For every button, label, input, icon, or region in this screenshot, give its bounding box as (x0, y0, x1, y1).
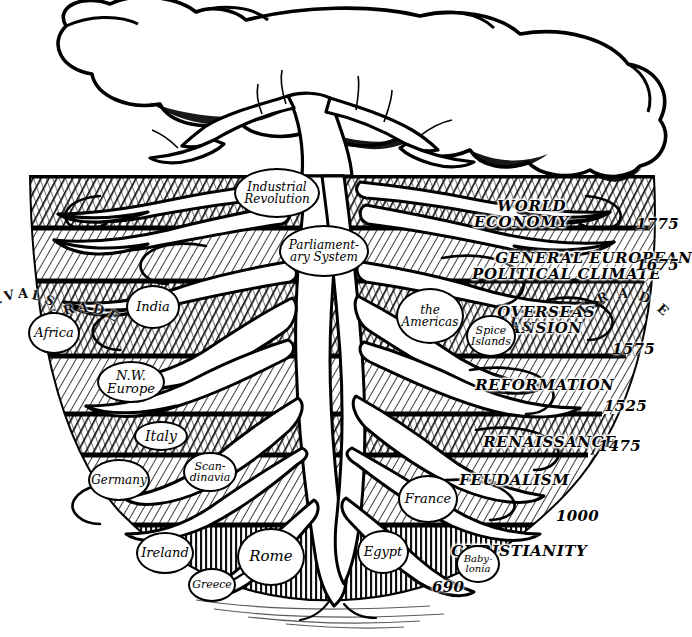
root-node-parliamentary-system: Parliament-ary System (279, 225, 369, 277)
root-node-italy: Italy (134, 421, 188, 451)
root-node-the-americas: theAmericas (396, 288, 464, 344)
tree-canopy (58, 0, 666, 182)
curved-letter: A (18, 286, 28, 301)
root-node-label: Italy (145, 429, 177, 443)
root-node-label: IndustrialRevolution (244, 181, 309, 205)
date-marker-690: 690 (432, 580, 464, 595)
root-node-label: SpiceIslands (471, 325, 511, 347)
root-node-nw-europe: N.W.Europe (97, 361, 165, 403)
root-node-scandinavia: Scan-dinavia (183, 452, 237, 492)
root-node-label: Egypt (364, 545, 403, 558)
date-marker-1000: 1000 (556, 509, 599, 524)
root-node-babylonia: Baby-lonia (456, 545, 500, 583)
root-node-spice-islands: SpiceIslands (466, 315, 516, 357)
root-node-label: Greece (192, 579, 232, 590)
root-node-rome: Rome (237, 528, 305, 586)
stratum-label-reformation: REFORMATION (452, 363, 614, 409)
root-node-label: Ireland (141, 546, 189, 559)
root-node-label: Baby-lonia (464, 554, 493, 574)
date-marker-1475: 1475 (598, 439, 641, 454)
root-node-africa: Africa (28, 312, 80, 354)
root-node-label: Scan-dinavia (190, 461, 231, 483)
curved-letter: A (78, 300, 88, 315)
root-node-label: France (405, 492, 451, 505)
root-node-label: India (136, 300, 170, 313)
root-node-label: Germany (91, 474, 146, 486)
date-marker-1575: 1575 (612, 342, 655, 357)
root-node-industrial-revolution: IndustrialRevolution (234, 168, 320, 218)
root-node-ireland: Ireland (136, 532, 194, 574)
root-node-label: theAmericas (402, 304, 459, 328)
page-caption-fragment (6, 622, 406, 636)
date-marker-1675: 1675 (636, 258, 679, 273)
curved-letter: A (618, 286, 628, 301)
date-marker-1775: 1775 (636, 217, 679, 232)
root-node-egypt: Egypt (357, 530, 409, 574)
date-marker-1525: 1525 (604, 399, 647, 414)
root-node-greece: Greece (188, 568, 236, 602)
root-node-label: N.W.Europe (107, 369, 155, 396)
root-node-label: Rome (249, 549, 292, 564)
stratum-label-christianity: CHRISTIANITY (428, 529, 587, 575)
root-node-label: Parliament-ary System (289, 239, 359, 263)
root-node-france: France (398, 475, 458, 523)
root-node-germany: Germany (88, 459, 150, 501)
root-node-label: Africa (34, 326, 73, 339)
root-node-india: India (126, 285, 180, 329)
